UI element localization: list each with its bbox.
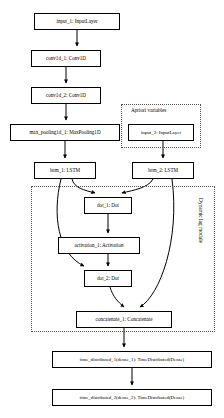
- layer-node-lstm_1[interactable]: lstm_1: LSTM: [34, 162, 96, 179]
- layer-label-max_pooling1d_1: max_pooling1d_1: MaxPooling1D: [29, 130, 100, 135]
- layer-label-input_1: input_1: InputLayer: [57, 19, 98, 24]
- layer-node-input_1[interactable]: input_1: InputLayer: [34, 13, 120, 30]
- layer-node-concatenate_1[interactable]: concatenate_1: Concatenate: [76, 311, 172, 328]
- layer-label-dot_2: dot_2: Dot: [97, 276, 119, 281]
- diagram-canvas: Apriori variablesDynamic lag module inpu…: [0, 0, 224, 418]
- layer-node-lstm_2[interactable]: lstm_2: LSTM: [132, 162, 194, 179]
- layer-label-time_distributed_1: time_distributed_1(dense_1): TimeDistrib…: [80, 357, 184, 362]
- layer-label-conv1d_2: conv1d_2: Conv1D: [46, 93, 86, 98]
- layer-node-max_pooling1d_1[interactable]: max_pooling1d_1: MaxPooling1D: [10, 124, 120, 141]
- layer-node-input_2[interactable]: input_2: InputLayer: [128, 124, 194, 141]
- layer-label-time_distributed_2: time_distributed_2(dense_2): TimeDistrib…: [80, 395, 184, 400]
- layer-label-lstm_2: lstm_2: LSTM: [148, 168, 178, 173]
- layer-node-dot_1[interactable]: dot_1: Dot: [84, 197, 132, 214]
- layer-node-activation_1[interactable]: activation_1: Activation: [58, 237, 140, 254]
- layer-node-conv1d_2[interactable]: conv1d_2: Conv1D: [31, 87, 101, 104]
- layer-node-dot_2[interactable]: dot_2: Dot: [84, 270, 132, 287]
- layer-label-lstm_1: lstm_1: LSTM: [50, 168, 80, 173]
- layer-node-time_distributed_1[interactable]: time_distributed_1(dense_1): TimeDistrib…: [52, 351, 212, 368]
- layer-node-time_distributed_2[interactable]: time_distributed_2(dense_2): TimeDistrib…: [52, 389, 212, 406]
- layer-label-conv1d_1: conv1d_1: Conv1D: [46, 56, 86, 61]
- group-label-dynamic_lag: Dynamic lag module: [198, 198, 204, 243]
- layer-label-dot_1: dot_1: Dot: [97, 203, 119, 208]
- layer-label-input_2: input_2: InputLayer: [141, 130, 181, 135]
- layer-label-concatenate_1: concatenate_1: Concatenate: [96, 317, 153, 322]
- layer-node-conv1d_1[interactable]: conv1d_1: Conv1D: [31, 50, 101, 67]
- group-label-apriori: Apriori variables: [131, 107, 166, 113]
- layer-label-activation_1: activation_1: Activation: [74, 243, 123, 248]
